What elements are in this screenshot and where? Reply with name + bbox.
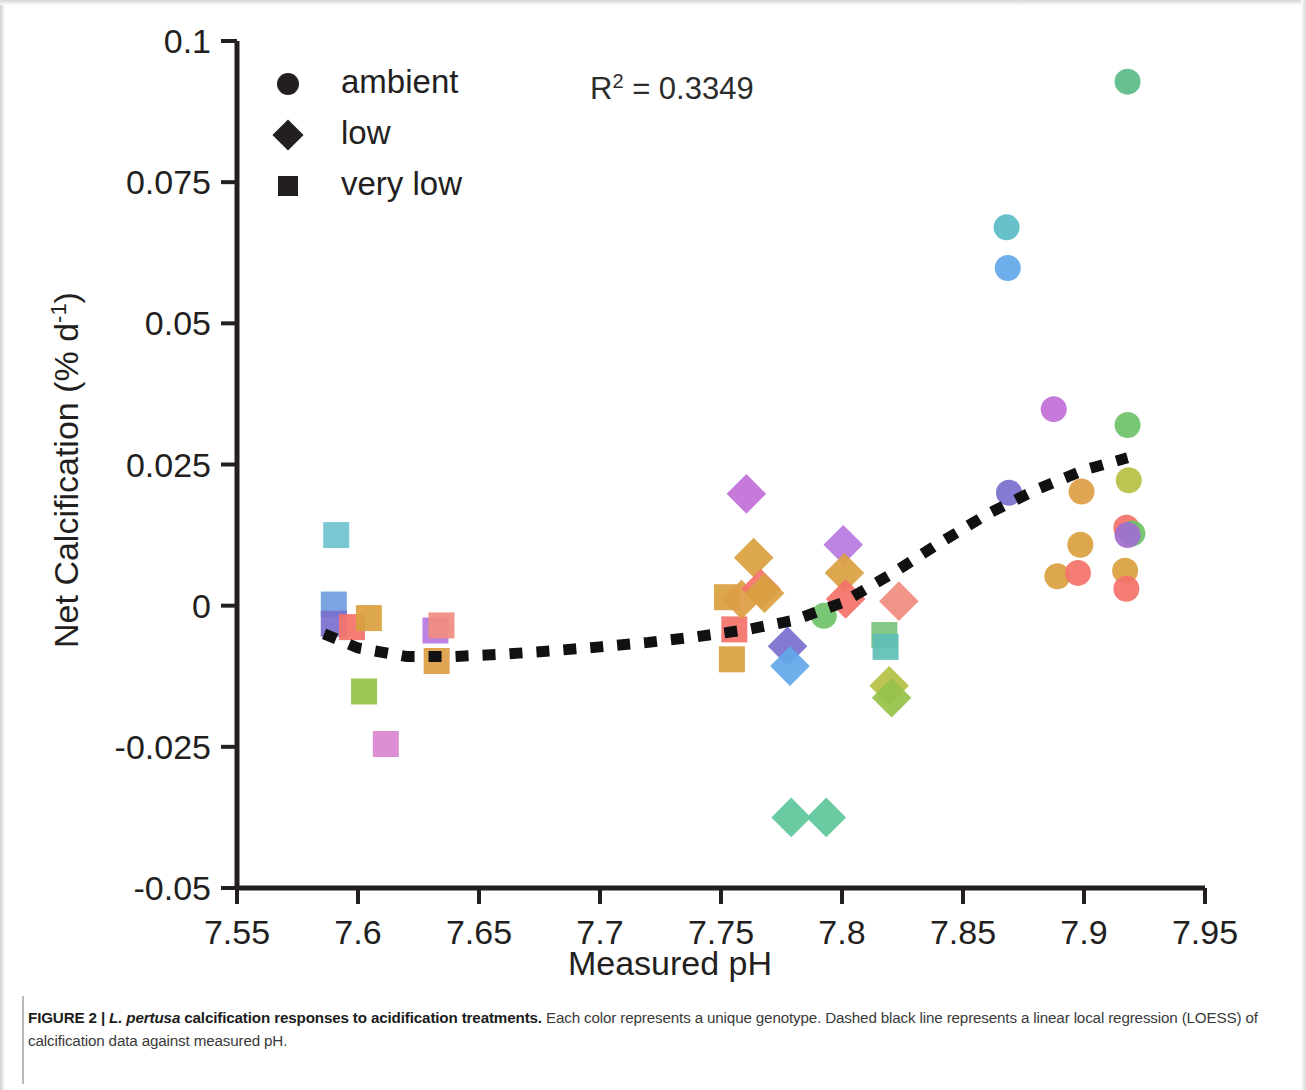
caption-label: FIGURE 2 | <box>28 1009 105 1026</box>
legend-marker-diamond <box>272 119 303 150</box>
data-point <box>727 474 767 514</box>
data-point <box>351 678 377 704</box>
x-tick-label: 7.8 <box>818 913 865 951</box>
data-point <box>719 646 745 672</box>
x-tick-label: 7.9 <box>1060 913 1107 951</box>
data-point <box>994 214 1020 240</box>
x-tick-label: 7.95 <box>1172 913 1238 951</box>
data-point <box>734 538 774 578</box>
data-point <box>1041 396 1067 422</box>
figure-caption: FIGURE 2 | L. pertusa calcification resp… <box>28 1006 1286 1052</box>
y-tick-label: -0.025 <box>115 728 211 766</box>
legend-label: ambient <box>341 63 458 100</box>
y-tick-label: 0.025 <box>126 446 211 484</box>
r-squared-exponent: 2 <box>612 70 623 92</box>
y-axis-title-superscript: -1 <box>46 303 71 323</box>
data-point <box>1067 532 1093 558</box>
data-point <box>873 634 899 660</box>
caption-species: L. pertusa <box>109 1009 180 1026</box>
data-point <box>1069 479 1095 505</box>
x-tick-label: 7.55 <box>204 913 270 951</box>
svg-text:R2 = 0.3349: R2 = 0.3349 <box>590 70 754 106</box>
data-point <box>356 605 382 631</box>
data-point <box>771 798 811 838</box>
y-tick-label: 0.1 <box>164 22 211 60</box>
data-point <box>1116 467 1142 493</box>
y-axis-title: Net Calcification (% d-1) <box>46 292 85 648</box>
y-axis-title-main: Net Calcification (% d <box>47 323 85 648</box>
data-point <box>1115 412 1141 438</box>
data-point <box>995 255 1021 281</box>
data-point <box>1115 69 1141 95</box>
caption-title-rest: calcification responses to acidification… <box>180 1009 542 1026</box>
data-point <box>1065 560 1091 586</box>
data-point <box>373 731 399 757</box>
legend-label: very low <box>341 165 462 202</box>
legend-marker-square <box>278 176 298 196</box>
y-tick-label: 0.075 <box>126 163 211 201</box>
y-tick-label: 0 <box>192 587 211 625</box>
r-squared-annotation: R2 = 0.3349 <box>590 70 754 106</box>
data-point <box>323 522 349 548</box>
data-point <box>1115 522 1141 548</box>
x-tick-label: 7.65 <box>446 913 512 951</box>
legend-label: low <box>341 114 391 151</box>
legend-marker-circle <box>277 73 299 95</box>
data-point <box>879 581 919 621</box>
data-point <box>806 798 846 838</box>
y-tick-label: 0.05 <box>145 304 211 342</box>
caption-rule <box>22 996 24 1084</box>
y-tick-label: -0.05 <box>134 869 212 907</box>
r-squared-label: R <box>590 71 612 106</box>
r-squared-value: = 0.3349 <box>624 71 754 106</box>
legend: ambientlowvery low <box>272 63 462 202</box>
figure-container: -0.05-0.02500.0250.050.0750.17.557.67.65… <box>0 0 1306 1090</box>
data-point <box>428 612 454 638</box>
scatter-plot: -0.05-0.02500.0250.050.0750.17.557.67.65… <box>0 0 1306 1000</box>
data-point <box>1113 576 1139 602</box>
x-tick-label: 7.85 <box>930 913 996 951</box>
tick-label-layer: -0.05-0.02500.0250.050.0750.17.557.67.65… <box>115 22 1239 951</box>
svg-text:Net Calcification (% d-1): Net Calcification (% d-1) <box>46 292 85 648</box>
y-axis-title-tail: ) <box>47 292 85 303</box>
x-tick-label: 7.6 <box>334 913 381 951</box>
x-axis-title: Measured pH <box>568 944 772 982</box>
